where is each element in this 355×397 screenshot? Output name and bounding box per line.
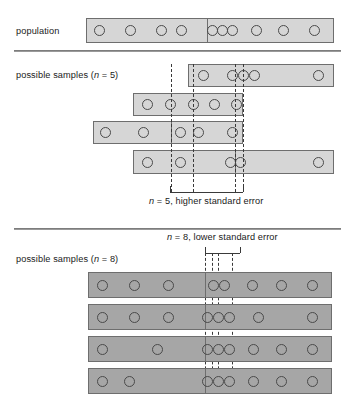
data-point-circle	[142, 99, 153, 110]
data-point-circle	[198, 70, 209, 81]
data-point-circle	[307, 312, 318, 323]
bracket-tick	[170, 186, 171, 192]
data-point-circle	[253, 312, 264, 323]
data-point-circle	[209, 99, 220, 110]
data-point-circle	[224, 344, 235, 355]
data-point-circle	[193, 127, 204, 138]
data-point-circle	[202, 344, 213, 355]
data-point-circle	[231, 99, 242, 110]
data-point-circle	[125, 25, 136, 36]
data-point-circle	[208, 280, 219, 291]
sample-mean-dashed-line	[235, 64, 236, 192]
data-point-circle	[213, 344, 224, 355]
data-point-circle	[219, 280, 230, 291]
data-point-circle	[313, 70, 324, 81]
data-point-circle	[97, 376, 108, 387]
data-point-circle	[156, 25, 167, 36]
data-point-circle	[213, 312, 224, 323]
data-point-circle	[129, 280, 140, 291]
sampling-error-diagram: population possible samples (n = 5) n = …	[0, 0, 355, 397]
data-point-circle	[176, 25, 187, 36]
data-point-circle	[97, 312, 108, 323]
section-rule-lower	[14, 228, 341, 230]
data-point-circle	[307, 280, 318, 291]
data-point-circle	[207, 25, 218, 36]
data-point-circle	[142, 157, 153, 168]
samples-n5-note: n = 5, higher standard error	[149, 196, 263, 206]
samples-n8-label: possible samples (n = 8)	[16, 254, 118, 264]
sample-bar	[93, 121, 243, 144]
data-point-circle	[163, 312, 174, 323]
sample-mean-divider	[205, 272, 206, 298]
data-point-circle	[276, 280, 287, 291]
bracket-span	[205, 253, 240, 254]
data-point-circle	[97, 344, 108, 355]
data-point-circle	[313, 157, 324, 168]
data-point-circle	[251, 25, 262, 36]
population-label: population	[16, 26, 59, 36]
data-point-circle	[227, 25, 238, 36]
data-point-circle	[152, 344, 163, 355]
data-point-circle	[138, 127, 149, 138]
data-point-circle	[202, 376, 213, 387]
data-point-circle	[129, 312, 140, 323]
data-point-circle	[247, 280, 258, 291]
data-point-circle	[224, 312, 235, 323]
sample-mean-dashed-line	[171, 64, 172, 192]
data-point-circle	[202, 312, 213, 323]
data-point-circle	[249, 70, 260, 81]
data-point-circle	[124, 376, 135, 387]
sample-mean-dashed-line	[243, 64, 244, 192]
data-point-circle	[94, 25, 105, 36]
data-point-circle	[175, 157, 186, 168]
data-point-circle	[213, 376, 224, 387]
data-point-circle	[248, 376, 259, 387]
sample-mean-dashed-line	[193, 64, 194, 192]
section-rule-upper	[14, 50, 341, 52]
data-point-circle	[276, 344, 287, 355]
data-point-circle	[309, 25, 320, 36]
data-point-circle	[307, 376, 318, 387]
data-point-circle	[224, 376, 235, 387]
data-point-circle	[217, 25, 228, 36]
data-point-circle	[165, 99, 176, 110]
bracket-span	[170, 192, 243, 193]
data-point-circle	[100, 127, 111, 138]
data-point-circle	[278, 25, 289, 36]
data-point-circle	[175, 127, 186, 138]
bracket-tick	[243, 186, 244, 192]
samples-n5-label: possible samples (n = 5)	[16, 70, 118, 80]
data-point-circle	[97, 280, 108, 291]
samples-n8-note: n = 8, lower standard error	[167, 232, 278, 242]
data-point-circle	[307, 344, 318, 355]
data-point-circle	[248, 344, 259, 355]
bracket-tick	[240, 247, 241, 253]
data-point-circle	[225, 157, 236, 168]
data-point-circle	[276, 376, 287, 387]
data-point-circle	[163, 280, 174, 291]
